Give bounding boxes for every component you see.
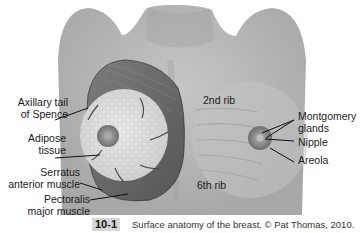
nipple-right <box>257 135 264 142</box>
figure-caption: 10-1 Surface anatomy of the breast. © Pa… <box>92 217 354 231</box>
label-serratus-anterior: Serratus anterior muscle <box>0 166 80 190</box>
label-areola: Areola <box>298 154 328 166</box>
label-axillary-tail: Axillary tail of Spence <box>6 96 68 120</box>
breast-anatomy-diagram: Axillary tail of Spence Adipose tissue S… <box>0 0 361 233</box>
figure-caption-text: Surface anatomy of the breast. © Pat Tho… <box>132 219 354 230</box>
figure-number: 10-1 <box>92 218 120 231</box>
label-nipple: Nipple <box>298 136 328 148</box>
nipple-left <box>105 133 112 140</box>
label-2nd-rib: 2nd rib <box>203 94 235 106</box>
label-6th-rib: 6th rib <box>197 179 226 191</box>
label-adipose-tissue: Adipose tissue <box>6 132 66 156</box>
label-montgomery-glands: Montgomery glands <box>298 110 356 134</box>
label-pectoralis-major: Pectoralis major muscle <box>14 193 90 217</box>
